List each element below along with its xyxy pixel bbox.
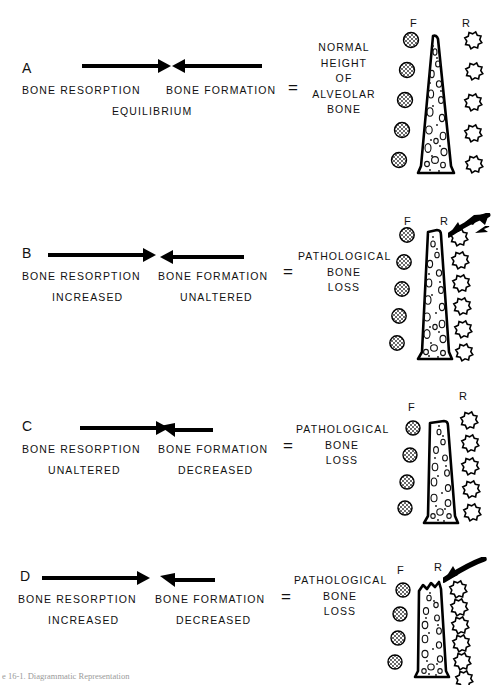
equals-sign: = [283, 262, 293, 282]
resorption-cell [465, 32, 483, 173]
result-line: BONE [298, 265, 390, 281]
result-block: NORMAL HEIGHT OF ALVEOLAR BONE [302, 40, 386, 118]
bone-illustration [385, 28, 491, 178]
bone-illustration [384, 573, 491, 685]
result-line: PATHOLOGICAL [294, 573, 386, 589]
result-block: PATHOLOGICAL BONE LOSS [296, 422, 388, 469]
formation-state: DECREASED [178, 464, 253, 476]
alveolar-bone [418, 230, 452, 359]
resorption-state: INCREASED [52, 291, 123, 303]
result-block: PATHOLOGICAL BONE LOSS [298, 249, 390, 296]
equals-sign: = [281, 587, 291, 607]
result-line: HEIGHT [302, 56, 386, 72]
result-block: PATHOLOGICAL BONE LOSS [294, 573, 386, 620]
resorption-label: BONE RESORPTION [18, 593, 137, 605]
resorption-cell-letter: R [459, 390, 467, 402]
resorption-cell [450, 581, 473, 685]
panel-d: D BONE RESORPTION INCREASED BONE FORMATI… [0, 540, 491, 670]
panel-letter: D [20, 568, 31, 584]
result-line: LOSS [296, 453, 388, 469]
formation-label: BONE FORMATION [158, 270, 268, 282]
formation-label: BONE FORMATION [166, 84, 276, 96]
panel-letter: B [22, 245, 32, 261]
formation-cell [398, 421, 420, 515]
formation-cell [388, 583, 410, 669]
formation-arrow [172, 56, 292, 76]
result-line: LOSS [298, 280, 390, 296]
resorption-label: BONE RESORPTION [22, 270, 141, 282]
equals-sign: = [288, 78, 298, 98]
result-line: BONE [294, 589, 386, 605]
formation-label: BONE FORMATION [155, 593, 265, 605]
resorption-state: INCREASED [48, 614, 119, 626]
formation-arrow [160, 420, 250, 440]
formation-state: UNALTERED [180, 291, 253, 303]
alveolar-bone [415, 582, 449, 677]
panel-letter: A [22, 60, 32, 76]
resorption-cell [451, 229, 473, 361]
resorption-state: UNALTERED [48, 464, 121, 476]
pointer-arrow [443, 557, 487, 589]
result-line: ALVEOLAR [302, 87, 386, 103]
formation-arrow [160, 570, 250, 590]
result-line: PATHOLOGICAL [296, 422, 388, 438]
resorption-cell [461, 412, 481, 521]
pointer-arrow [448, 213, 491, 243]
equals-sign: = [283, 436, 293, 456]
result-line: PATHOLOGICAL [298, 249, 390, 265]
result-line: BONE [302, 102, 386, 118]
result-line: BONE [296, 438, 388, 454]
bone-illustration [392, 410, 491, 532]
panel-b: B BONE RESORPTION INCREASED BONE FORMATI… [0, 190, 491, 370]
figure-caption: e 16-1. Diagrammatic Representation [2, 671, 129, 681]
result-line: LOSS [294, 604, 386, 620]
formation-state: DECREASED [176, 614, 251, 626]
panel-a: A BONE RESORPTION BONE FORMATION EQUILIB… [0, 0, 491, 190]
formation-label: BONE FORMATION [158, 443, 268, 455]
result-line: OF [302, 71, 386, 87]
resorption-label: BONE RESORPTION [22, 443, 141, 455]
formation-cell [392, 33, 419, 168]
alveolar-bone [418, 36, 454, 173]
result-line: NORMAL [302, 40, 386, 56]
resorption-cell-letter: R [434, 561, 442, 573]
equilibrium-note: EQUILIBRIUM [112, 105, 192, 117]
formation-cell [390, 228, 414, 350]
alveolar-bone [424, 421, 458, 523]
panel-letter: C [22, 418, 33, 434]
formation-arrow [160, 247, 280, 267]
bone-illustration [385, 226, 491, 368]
panel-c: C BONE RESORPTION UNALTERED BONE FORMATI… [0, 370, 491, 540]
resorption-label: BONE RESORPTION [22, 84, 141, 96]
